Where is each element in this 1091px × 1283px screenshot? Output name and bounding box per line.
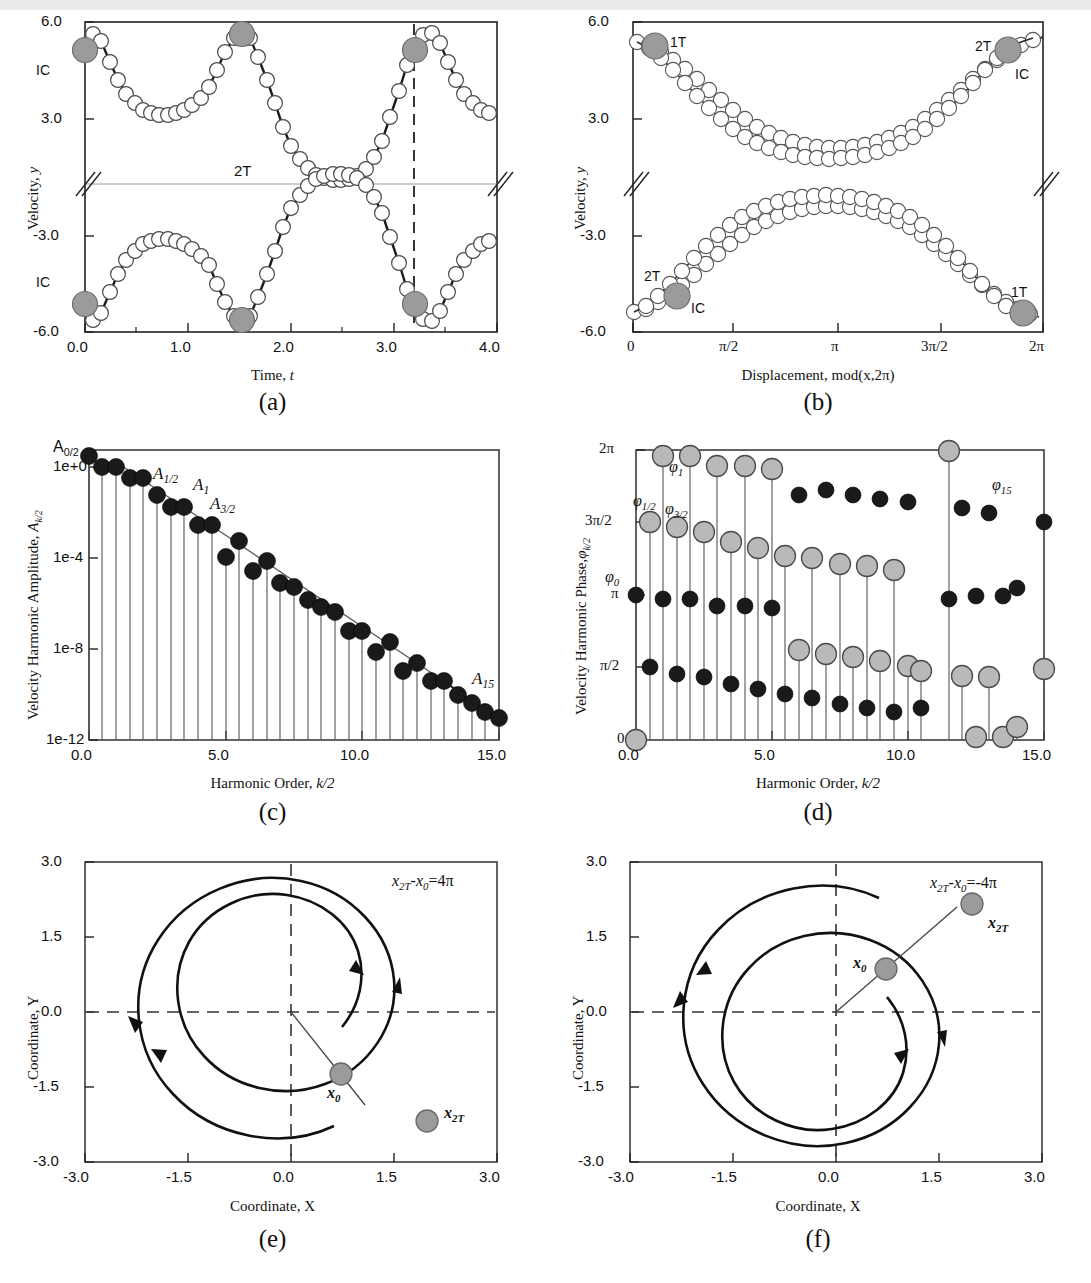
panel-d-caption: (d) — [545, 798, 1091, 826]
panel-e-xlabel: Coordinate, X — [0, 1198, 545, 1215]
panel-e: 3.0 1.5 0.0 -1.5 -3.0 -3.0 -1.5 0.0 1.5 … — [0, 850, 545, 1283]
panel-f-points — [875, 893, 983, 980]
panel-d-ytick-4: 0 — [617, 730, 625, 747]
panel-b-xtick-2: π — [831, 338, 839, 355]
panel-d-xtick-3: 15.0 — [1022, 746, 1051, 763]
panel-b: 6.0 3.0 -3.0 -6.0 0 π/2 π 3π/2 2π 1T 2T … — [545, 0, 1091, 420]
panel-a-xlabel: Time, t — [0, 367, 545, 384]
panel-b-caption: (b) — [545, 388, 1091, 416]
panel-c-ytick-3: 1e-12 — [46, 730, 84, 747]
panel-c-xtick-2: 10.0 — [340, 746, 369, 763]
panel-a-period-label: 2T — [234, 162, 252, 179]
panel-a: 6.0 3.0 -3.0 -6.0 0.0 1.0 2.0 3.0 4.0 IC… — [0, 0, 545, 420]
panel-b-ylabel: Velocity, y — [572, 167, 589, 230]
panel-b-label-ic-top: IC — [1015, 66, 1029, 82]
panel-c-ytick-2: 1e-8 — [53, 639, 83, 656]
panel-e-xtick-2: 0.0 — [273, 1168, 294, 1185]
panel-a-ic-bottom-label: IC — [36, 274, 50, 290]
panel-d-xlabel: Harmonic Order, k/2 — [545, 775, 1091, 792]
panel-e-xtick-1: -1.5 — [166, 1168, 192, 1185]
panel-f-equation-annotation: x2T-x0=-4π — [930, 874, 997, 894]
panel-d-ytick-1: 3π/2 — [585, 512, 612, 529]
panel-c-label-a1: A1 — [193, 475, 209, 497]
panel-a-xtick-1: 1.0 — [170, 338, 191, 355]
panel-b-label-2t-top: 2T — [975, 38, 991, 54]
panel-e-ytick-0: 3.0 — [41, 852, 62, 869]
panel-c-label-a15: A15 — [472, 669, 494, 691]
panel-a-caption: (a) — [0, 388, 545, 416]
panel-f-ytick-0: 3.0 — [586, 852, 607, 869]
panel-a-ytick-0: 6.0 — [41, 12, 62, 29]
panel-a-xtick-4: 4.0 — [479, 338, 500, 355]
panel-b-label-2t-bottom: 2T — [644, 268, 660, 284]
panel-f: 3.0 1.5 0.0 -1.5 -3.0 -3.0 -1.5 0.0 1.5 … — [545, 850, 1091, 1283]
panel-b-ytick-1: 3.0 — [588, 109, 609, 126]
panel-f-label-x2t: x2T — [988, 914, 1008, 934]
panel-a-ytick-1: 3.0 — [41, 109, 62, 126]
panel-b-ytick-3: -6.0 — [580, 322, 606, 339]
panel-a-xtick-3: 3.0 — [376, 338, 397, 355]
panel-b-xtick-3: 3π/2 — [921, 338, 948, 355]
panel-c-label-a0: A0/2 — [53, 438, 79, 458]
panel-e-ytick-4: -3.0 — [33, 1152, 59, 1169]
panel-c-xtick-0: 0.0 — [71, 746, 92, 763]
panel-e-label-x2t: x2T — [444, 1104, 464, 1124]
panel-a-upper-series — [85, 26, 497, 188]
panel-d-label-phi-0: φ0 — [605, 568, 619, 588]
panel-e-plot — [0, 850, 545, 1283]
panel-d-label-phi-1: φ1 — [669, 458, 683, 478]
panel-b-ytick-0: 6.0 — [588, 12, 609, 29]
panel-d-label-phi-15: φ15 — [992, 476, 1012, 496]
panel-d-xtick-1: 5.0 — [754, 746, 775, 763]
panel-e-label-x0: x0 — [327, 1084, 340, 1104]
panel-b-xtick-4: 2π — [1029, 338, 1044, 355]
panel-c-xlabel: Harmonic Order, k/2 — [0, 775, 545, 792]
panel-f-label-x0: x0 — [853, 954, 866, 974]
panel-a-plot — [0, 0, 545, 420]
panel-e-spiral-path — [138, 878, 394, 1138]
figure-root: 6.0 3.0 -3.0 -6.0 0.0 1.0 2.0 3.0 4.0 IC… — [0, 0, 1091, 1283]
panel-f-xtick-4: 3.0 — [1024, 1168, 1045, 1185]
panel-a-lower-series — [85, 167, 497, 329]
panel-d-ytick-0: 2π — [599, 440, 614, 457]
panel-e-xtick-3: 1.5 — [376, 1168, 397, 1185]
panel-d-xtick-2: 10.0 — [886, 746, 915, 763]
panel-d-ylabel: Velocity Harmonic Phase,φk/2 — [573, 538, 592, 715]
panel-f-ytick-2: 0.0 — [586, 1002, 607, 1019]
panel-a-ytick-3: -6.0 — [33, 322, 59, 339]
panel-f-ytick-4: -3.0 — [578, 1152, 604, 1169]
panel-d: 2π 3π/2 π π/2 0 0.0 5.0 10.0 15.0 φ1/2 φ… — [545, 420, 1091, 850]
panel-b-label-1t-bottom: 1T — [1011, 284, 1027, 300]
panel-f-spiral-path — [683, 886, 939, 1146]
panel-e-points — [330, 1063, 438, 1132]
panel-e-equation-annotation: x2T-x0=4π — [392, 872, 454, 892]
panel-d-label-phi-half: φ1/2 — [633, 492, 656, 512]
panel-e-xtick-4: 3.0 — [479, 1168, 500, 1185]
panel-a-xtick-2: 2.0 — [273, 338, 294, 355]
panel-a-ic-top-label: IC — [36, 62, 50, 78]
panel-e-ytick-1: 1.5 — [41, 927, 62, 944]
panel-c-ytick-1: 1e-4 — [53, 548, 83, 565]
panel-e-ytick-2: 0.0 — [41, 1002, 62, 1019]
panel-c-label-a-three-half: A3/2 — [210, 494, 235, 516]
panel-f-xlabel: Coordinate, X — [545, 1198, 1091, 1215]
panel-f-xtick-0: -3.0 — [608, 1168, 634, 1185]
panel-f-ylabel: Coordinate, Y — [570, 996, 587, 1080]
panel-e-caption: (e) — [0, 1225, 545, 1253]
panel-d-ytick-3: π/2 — [600, 657, 619, 674]
panel-b-xtick-1: π/2 — [719, 338, 738, 355]
panel-c-ytick-0: 1e+0 — [53, 457, 87, 474]
panel-b-plot — [545, 0, 1091, 420]
panel-b-label-1t-top: 1T — [670, 34, 686, 50]
panel-c: 1e+0 1e-4 1e-8 1e-12 0.0 5.0 10.0 15.0 A… — [0, 420, 545, 850]
panel-c-label-a-half: A1/2 — [153, 464, 178, 486]
panel-e-xtick-0: -3.0 — [63, 1168, 89, 1185]
panel-f-ytick-1: 1.5 — [586, 927, 607, 944]
panel-f-xtick-1: -1.5 — [711, 1168, 737, 1185]
panel-f-plot — [545, 850, 1091, 1283]
panel-a-xtick-0: 0.0 — [67, 338, 88, 355]
panel-e-ylabel: Coordinate, Y — [25, 996, 42, 1080]
panel-b-xlabel: Displacement, mod(x,2π) — [545, 367, 1091, 384]
panel-c-xtick-3: 15.0 — [477, 746, 506, 763]
panel-f-caption: (f) — [545, 1225, 1091, 1253]
